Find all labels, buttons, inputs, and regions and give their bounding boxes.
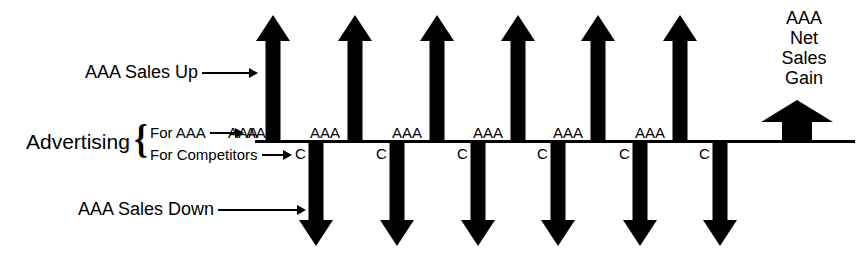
arrow-head <box>541 220 575 246</box>
aaa-sales-up-arrow <box>420 15 454 140</box>
net-sales-gain-arrow-up <box>761 100 833 142</box>
arrow-shaft <box>673 39 688 140</box>
arrow-shaft <box>348 39 363 140</box>
aaa-advertising-label: AAA <box>553 124 583 141</box>
competitor-advertising-label: C <box>295 145 306 162</box>
arrow-shaft <box>713 140 728 222</box>
aaa-advertising-label: AAA <box>473 124 503 141</box>
arrow-shaft <box>591 39 606 140</box>
competitor-advertising-label: C <box>376 145 387 162</box>
arrow-shaft <box>390 140 405 222</box>
arrow-head <box>461 220 495 246</box>
arrow-head <box>338 15 372 41</box>
for-competitors-annotation-row: For Competitors <box>150 146 294 163</box>
advertising-label: Advertising <box>26 130 130 154</box>
arrow-shaft <box>511 39 526 140</box>
aaa-sales-down-annotation-row: AAA Sales Down <box>78 199 308 220</box>
arrow-shaft <box>782 121 812 142</box>
arrow-right-icon <box>218 205 306 215</box>
aaa-sales-up-arrow <box>663 15 697 140</box>
arrow-head <box>581 15 615 41</box>
arrow-head <box>299 220 333 246</box>
aaa-advertising-label: AAA <box>310 124 340 141</box>
aaa-sales-up-arrow <box>501 15 535 140</box>
aaa-advertising-label: AAA <box>392 124 422 141</box>
diagram-canvas: Advertising { For AAA AAA For Competitor… <box>0 0 857 258</box>
aaa-advertising-label: AAA <box>228 124 258 141</box>
aaa-sales-up-arrow <box>338 15 372 140</box>
aaa-sales-up-label: AAA Sales Up <box>85 62 198 83</box>
arrow-right-icon <box>262 150 292 160</box>
arrow-shaft <box>471 140 486 222</box>
aaa-advertising-label: AAA <box>635 124 665 141</box>
arrow-head <box>501 15 535 41</box>
aaa-sales-up-arrow <box>581 15 615 140</box>
arrow-head <box>256 15 290 41</box>
competitor-advertising-label: C <box>537 145 548 162</box>
arrow-shaft <box>551 140 566 222</box>
arrow-shaft <box>309 140 324 222</box>
arrow-head <box>761 100 833 122</box>
for-aaa-label: For AAA <box>150 124 206 141</box>
net-sales-gain-label: AAA Net Sales Gain <box>762 8 846 88</box>
competitor-advertising-label: C <box>619 145 630 162</box>
aaa-sales-up-arrow <box>256 15 290 140</box>
curly-brace-icon: { <box>134 119 147 159</box>
arrow-head <box>420 15 454 41</box>
aaa-sales-up-annotation-row: AAA Sales Up <box>85 62 260 83</box>
arrow-right-icon <box>202 68 258 78</box>
competitor-advertising-label: C <box>699 145 710 162</box>
arrow-head <box>663 15 697 41</box>
competitor-advertising-label: C <box>457 145 468 162</box>
arrow-shaft <box>430 39 445 140</box>
arrow-head <box>380 220 414 246</box>
arrow-shaft <box>266 39 281 140</box>
arrow-head <box>623 220 657 246</box>
arrow-shaft <box>633 140 648 222</box>
aaa-sales-down-label: AAA Sales Down <box>78 199 214 220</box>
for-competitors-label: For Competitors <box>150 146 258 163</box>
arrow-head <box>703 220 737 246</box>
